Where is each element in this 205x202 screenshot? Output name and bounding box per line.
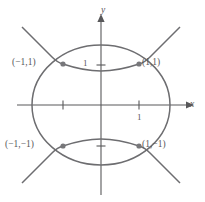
intersection-marker-upper-right	[136, 61, 141, 66]
x-tick-label-1: 1	[137, 113, 142, 122]
point-label-lower-left: (−1,−1)	[5, 140, 34, 150]
intersection-marker-upper-left	[60, 61, 65, 66]
axes-group	[17, 14, 194, 195]
x-axis-label: x	[190, 100, 194, 110]
point-label-upper-right: (1,1)	[142, 58, 160, 68]
math-figure: (−1,1) (1,1) (−1,−1) (1,−1) y x 1 1	[0, 0, 205, 202]
intersection-marker-lower-left	[60, 143, 65, 148]
curve-plot-canvas	[0, 0, 205, 202]
point-label-lower-right: (1,−1)	[142, 140, 166, 150]
y-tick-label-1: 1	[83, 59, 88, 68]
intersection-marker-lower-right	[136, 143, 141, 148]
y-axis-label: y	[101, 6, 105, 16]
point-label-upper-left: (−1,1)	[12, 58, 36, 68]
